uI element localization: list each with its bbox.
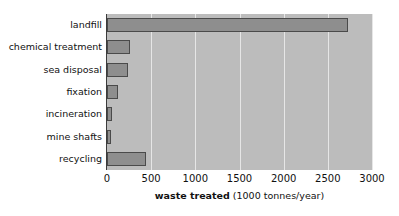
x-tick-label: 3000	[359, 172, 384, 185]
bar	[107, 40, 130, 54]
x-axis-title: waste treated (1000 tonnes/year)	[107, 190, 372, 202]
category-label: fixation	[0, 86, 102, 97]
category-label: landfill	[0, 19, 102, 30]
bar	[107, 18, 348, 32]
x-tick-label: 2500	[315, 172, 340, 185]
x-axis-tick-labels: 050010001500200025003000	[0, 172, 399, 188]
category-axis-labels: landfillchemical treatmentsea disposalfi…	[0, 14, 102, 170]
gridline	[195, 14, 196, 170]
x-tick-label: 500	[142, 172, 161, 185]
category-label: incineration	[0, 108, 102, 119]
bar	[107, 63, 128, 77]
category-label: mine shafts	[0, 131, 102, 142]
bar-chart: landfillchemical treatmentsea disposalfi…	[0, 0, 399, 216]
plot-area	[107, 14, 372, 170]
x-tick-label: 1500	[227, 172, 252, 185]
x-tick-label: 0	[104, 172, 110, 185]
category-label: sea disposal	[0, 64, 102, 75]
bar	[107, 152, 146, 166]
x-tick-label: 2000	[271, 172, 296, 185]
gridline	[372, 14, 373, 170]
category-label: recycling	[0, 153, 102, 164]
x-tick-label: 1000	[183, 172, 208, 185]
gridline	[240, 14, 241, 170]
y-axis-line	[106, 14, 107, 170]
gridline	[151, 14, 152, 170]
bar	[107, 130, 111, 144]
bar	[107, 107, 112, 121]
gridline	[284, 14, 285, 170]
category-label: chemical treatment	[0, 41, 102, 52]
x-axis-title-unit: (1000 tonnes/year)	[230, 190, 324, 201]
x-axis-title-main: waste treated	[155, 190, 230, 201]
gridline	[328, 14, 329, 170]
bar	[107, 85, 118, 99]
